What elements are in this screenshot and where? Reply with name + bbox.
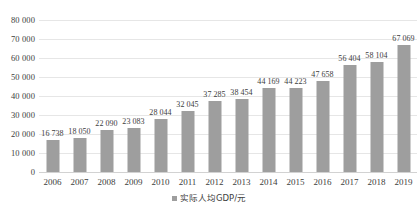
bar <box>127 128 140 172</box>
bar-value-label: 23 083 <box>122 117 144 126</box>
bar-value-label: 38 454 <box>230 88 252 97</box>
x-tick-label: 2017 <box>341 176 359 188</box>
y-tick-label: 40 000 <box>11 92 35 101</box>
bar-value-label: 44 223 <box>284 77 306 86</box>
bar <box>46 140 59 172</box>
bar-slot: 67 069 <box>390 0 417 178</box>
bar-value-label: 28 044 <box>149 108 171 117</box>
bar-slot: 28 044 <box>147 0 174 178</box>
x-tick-label: 2008 <box>98 176 116 188</box>
bar <box>181 111 194 172</box>
bar <box>235 99 248 172</box>
x-tick-label: 2006 <box>44 176 62 188</box>
bar <box>208 101 221 172</box>
x-tick-label: 2013 <box>233 176 251 188</box>
bar <box>100 130 113 172</box>
x-tick-label: 2012 <box>206 176 224 188</box>
bar-value-label: 16 738 <box>41 129 63 138</box>
bar-slot: 32 045 <box>174 0 201 178</box>
bar-slot: 58 104 <box>363 0 390 178</box>
bar-value-label: 47 658 <box>311 70 333 79</box>
chart-legend: 实际人均GDP/元 <box>0 191 418 205</box>
y-axis: 010 00020 00030 00040 00050 00060 00070 … <box>0 0 38 178</box>
bar-slot: 44 223 <box>282 0 309 178</box>
bar <box>262 88 275 172</box>
y-tick-label: 50 000 <box>11 73 35 82</box>
y-tick-label: 70 000 <box>11 35 35 44</box>
bar-value-label: 37 285 <box>203 90 225 99</box>
bar <box>397 45 410 172</box>
bar-slot: 47 658 <box>309 0 336 178</box>
x-tick-label: 2019 <box>395 176 413 188</box>
bar-chart: 010 00020 00030 00040 00050 00060 00070 … <box>0 0 418 208</box>
x-tick-label: 2018 <box>368 176 386 188</box>
bar-value-label: 32 045 <box>176 100 198 109</box>
x-tick-label: 2011 <box>179 176 197 188</box>
bars: 16 73818 05022 09023 08328 04432 04537 2… <box>39 0 417 178</box>
y-tick-label: 80 000 <box>11 16 35 25</box>
bar-slot: 16 738 <box>39 0 66 178</box>
legend-swatch-icon <box>172 196 177 201</box>
bar <box>73 138 86 172</box>
bar <box>370 62 383 172</box>
plot-area: 16 73818 05022 09023 08328 04432 04537 2… <box>39 0 417 178</box>
bar-value-label: 22 090 <box>95 119 117 128</box>
bar-slot: 38 454 <box>228 0 255 178</box>
bar-slot: 44 169 <box>255 0 282 178</box>
x-tick-label: 2007 <box>71 176 89 188</box>
bar-value-label: 67 069 <box>392 34 414 43</box>
x-tick-label: 2015 <box>287 176 305 188</box>
bar-slot: 23 083 <box>120 0 147 178</box>
bar <box>289 88 302 172</box>
bar-value-label: 58 104 <box>365 51 387 60</box>
x-axis: 2006200720082009201020112012201320142015… <box>39 176 417 190</box>
bar <box>154 119 167 172</box>
y-tick-label: 30 000 <box>11 111 35 120</box>
x-tick-label: 2009 <box>125 176 143 188</box>
bar-value-label: 18 050 <box>68 127 90 136</box>
x-tick-label: 2016 <box>314 176 332 188</box>
y-tick-label: 10 000 <box>11 149 35 158</box>
bar-slot: 18 050 <box>66 0 93 178</box>
bar-slot: 22 090 <box>93 0 120 178</box>
legend-label: 实际人均GDP/元 <box>180 193 246 203</box>
bar <box>316 81 329 172</box>
y-tick-label: 20 000 <box>11 130 35 139</box>
y-tick-label: 60 000 <box>11 54 35 63</box>
x-tick-label: 2014 <box>260 176 278 188</box>
bar-slot: 37 285 <box>201 0 228 178</box>
bar-value-label: 56 404 <box>338 54 360 63</box>
bar-slot: 56 404 <box>336 0 363 178</box>
x-tick-label: 2010 <box>152 176 170 188</box>
y-tick-label: 0 <box>31 168 35 177</box>
bar <box>343 65 356 172</box>
bar-value-label: 44 169 <box>257 77 279 86</box>
